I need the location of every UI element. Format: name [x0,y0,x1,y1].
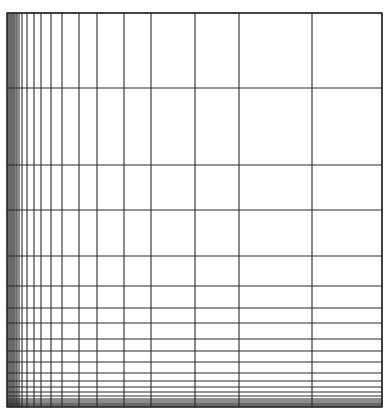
log-grid-diagram [0,0,388,416]
